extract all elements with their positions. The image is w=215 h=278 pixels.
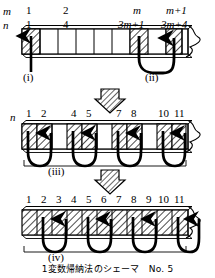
- d2-num-10: 10: [158, 108, 169, 119]
- d2-num-11: 11: [174, 108, 185, 119]
- strip-two: [22, 121, 200, 153]
- row-label-m: m: [3, 6, 11, 17]
- colm1-m-label: m+1: [166, 5, 187, 16]
- induction-schema-figure: m n 1 1 2 4 m 3m+1 m+1 3m+4 (i) (ii) n 1…: [0, 0, 215, 278]
- transition-arrow-2: [95, 170, 125, 194]
- d2-num-2: 2: [41, 108, 47, 119]
- col2-m-label: 2: [63, 5, 69, 16]
- d3-num-1: 1: [26, 194, 32, 205]
- d2-num-5: 5: [86, 108, 92, 119]
- col2-n-label: 4: [63, 19, 69, 30]
- figure-canvas: [0, 0, 215, 278]
- d2-num-8: 8: [131, 108, 137, 119]
- d3-num-3: 3: [56, 194, 62, 205]
- row-label-n-2: n: [10, 112, 16, 123]
- d2-num-1: 1: [26, 108, 32, 119]
- col1-n-label: 1: [26, 19, 32, 30]
- d2-num-7: 7: [116, 108, 122, 119]
- d3-num-2: 2: [41, 194, 47, 205]
- colm-m-label: m: [133, 5, 141, 16]
- colm1-n-label: 3m+4: [161, 19, 187, 30]
- step-label-i: (i): [23, 72, 33, 83]
- d3-num-7: 7: [116, 194, 122, 205]
- d3-num-8: 8: [131, 194, 137, 205]
- d3-num-4: 4: [71, 194, 77, 205]
- col1-m-label: 1: [26, 5, 32, 16]
- d3-num-10: 10: [158, 194, 169, 205]
- step-label-ii: (ii): [145, 72, 158, 83]
- d3-num-6: 6: [101, 194, 107, 205]
- step-label-iii: (iii): [48, 166, 65, 177]
- d3-num-9: 9: [146, 194, 152, 205]
- d3-num-5: 5: [86, 194, 92, 205]
- row-label-n: n: [3, 20, 9, 31]
- figure-caption: 1変数帰納法のシェーマ No. 5: [0, 262, 215, 275]
- d3-num-11: 11: [174, 194, 185, 205]
- d2-num-4: 4: [71, 108, 77, 119]
- colm-n-label: 3m+1: [118, 19, 144, 30]
